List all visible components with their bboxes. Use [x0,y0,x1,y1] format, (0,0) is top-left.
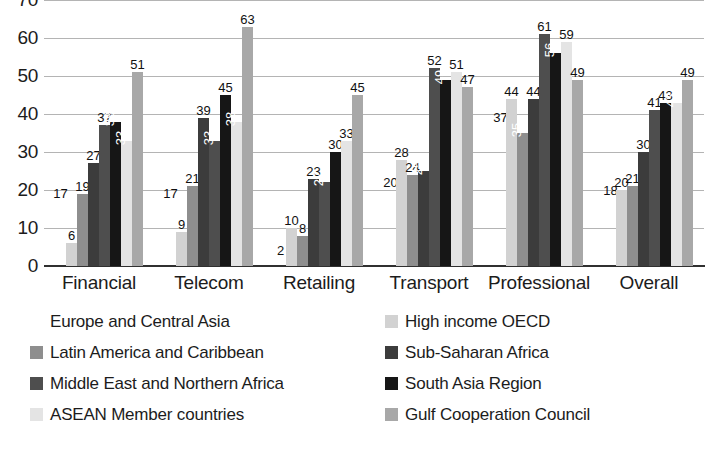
legend-item: High income OECD [385,312,690,332]
bar: 59 [561,42,572,266]
plot-area: 010203040506070 176192737383351179213933… [0,0,713,300]
legend-label: Latin America and Caribbean [50,343,264,363]
bar: 9 [176,232,187,266]
bar-value-label: 45 [350,81,364,94]
chart-legend: Europe and Central AsiaHigh income OECDL… [30,306,690,436]
bar-value-label: 23 [306,165,320,178]
bar: 49 [682,80,693,266]
bar: 18 [605,198,616,266]
legend-label: Middle East and Northern Africa [50,374,284,394]
bar: 33 [341,141,352,266]
bar: 6 [66,243,77,266]
bar-value-label: 8 [299,222,306,235]
bar: 2 [275,258,286,266]
y-tick-label: 50 [0,66,38,85]
bar: 27 [88,163,99,266]
bar: 23 [308,179,319,266]
legend-swatch-icon [385,377,398,390]
bar: 20 [616,190,627,266]
bar: 51 [451,72,462,266]
bar: 35 [517,133,528,266]
bar-group: 176192737383351 [44,0,154,266]
bar-value-label: 2 [277,244,284,257]
bar-group: 2028242552495147 [374,0,484,266]
bar: 52 [429,68,440,266]
legend-swatch-icon [385,408,398,421]
bar-value-label: 6 [68,229,75,242]
bar-value-label: 17 [163,187,177,200]
legend-swatch-icon [385,315,398,328]
bar-value-label: 25 [411,161,424,175]
y-tick-label: 40 [0,104,38,123]
x-axis-label: Overall [594,270,704,298]
bar: 63 [242,27,253,266]
bar: 8 [297,236,308,266]
bar: 45 [352,95,363,266]
bar-value-label: 44 [504,85,518,98]
bar: 21 [187,186,198,266]
bar: 33 [209,141,220,266]
bar: 39 [198,118,209,266]
legend-swatch-icon [30,346,43,359]
bar-value-label: 17 [53,187,67,200]
bar: 17 [165,201,176,266]
bar-value-label: 47 [460,73,474,86]
bar-value-label: 63 [240,13,254,26]
legend-label: Sub-Saharan Africa [405,343,549,363]
bar: 28 [396,160,407,266]
bar: 17 [55,201,66,266]
bar-group: 1820213041434349 [594,0,704,266]
bar: 37 [99,125,110,266]
legend-label: High income OECD [405,312,550,332]
bar-value-label: 51 [449,58,463,71]
bar: 44 [528,99,539,266]
y-tick-label: 0 [0,256,38,275]
bar-group: 179213933453863 [154,0,264,266]
x-axis-label: Retailing [264,270,374,298]
bar-group: 3744354461565949 [484,0,594,266]
bar-group: 21082322303345 [264,0,374,266]
bar-value-label: 61 [537,20,551,33]
legend-item: Gulf Cooperation Council [385,405,690,425]
grouped-bar-chart: 010203040506070 176192737383351179213933… [0,0,713,460]
bar-value-label: 38 [103,111,116,125]
legend-item: Europe and Central Asia [30,312,385,332]
bar: 43 [660,103,671,266]
y-tick-label: 10 [0,218,38,237]
legend-swatch-icon [385,346,398,359]
x-axis-label: Financial [44,270,154,298]
bar: 43 [671,103,682,266]
x-axis-label: Telecom [154,270,264,298]
bar-value-label: 9 [178,218,185,231]
bar: 45 [220,95,231,266]
x-axis-category-labels: FinancialTelecomRetailingTransportProfes… [44,270,704,298]
bar: 22 [319,182,330,266]
legend-item: ASEAN Member countries [30,405,385,425]
bar-value-label: 39 [196,104,210,117]
bar-value-label: 51 [130,58,144,71]
bar-value-label: 43 [658,89,672,102]
legend-item: Middle East and Northern Africa [30,374,385,394]
bar: 44 [506,99,517,266]
bar: 21 [627,186,638,266]
bar-value-label: 49 [680,66,694,79]
bar: 25 [418,171,429,266]
legend-label: South Asia Region [405,374,541,394]
y-tick-label: 20 [0,180,38,199]
bar-value-label: 59 [559,28,573,41]
bar-value-label: 52 [427,54,441,67]
bar: 49 [572,80,583,266]
bar: 10 [286,228,297,266]
legend-item: South Asia Region [385,374,690,394]
bar: 61 [539,34,550,266]
bar: 41 [649,110,660,266]
bar-value-label: 28 [394,146,408,159]
x-axis-label: Professional [484,270,594,298]
bar: 51 [132,72,143,266]
bar: 47 [462,87,473,266]
y-tick-label: 30 [0,142,38,161]
bar: 37 [495,125,506,266]
legend-label: ASEAN Member countries [50,405,244,425]
legend-label: Europe and Central Asia [50,312,230,332]
legend-swatch-icon [30,315,43,328]
